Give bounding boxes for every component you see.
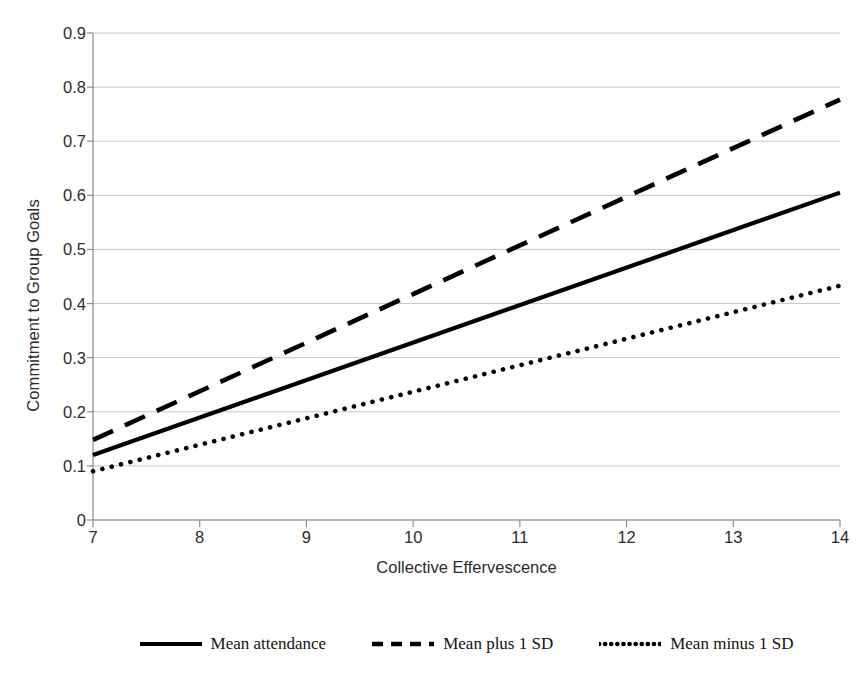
legend-entry-1[interactable]: Mean plus 1 SD [372,634,553,654]
x-tick-label: 13 [724,528,742,547]
legend-swatch-dotted [599,638,661,650]
legend-entry-2[interactable]: Mean minus 1 SD [599,634,793,654]
legend-swatch-dashed [372,638,434,650]
legend-label: Mean attendance [211,634,327,654]
x-tick-label: 12 [617,528,635,547]
chart-legend: Mean attendanceMean plus 1 SDMean minus … [93,627,840,661]
y-tick-label: 0.1 [63,456,86,475]
x-tick-label: 7 [88,528,97,547]
legend-entry-0[interactable]: Mean attendance [140,634,327,654]
x-tick-label: 9 [302,528,311,547]
legend-swatch-solid [140,638,202,650]
y-tick-label: 0.8 [63,78,86,97]
axis-lines [93,33,840,520]
plot-area [93,33,840,520]
x-axis-title-text: Collective Effervescence [376,558,556,576]
data-series [93,100,840,472]
y-axis-title: Commitment to Group Goals [18,135,48,475]
axis-ticks [87,33,840,527]
y-tick-label: 0.9 [63,24,86,43]
legend-label: Mean minus 1 SD [670,634,793,654]
gridlines [93,33,840,520]
series-line-0 [93,193,840,455]
plot-svg [93,33,840,520]
x-tick-label: 14 [831,528,849,547]
x-tick-label: 10 [404,528,422,547]
x-axis-title: Collective Effervescence [93,558,840,577]
y-axis-title-text: Commitment to Group Goals [24,199,43,412]
legend-label: Mean plus 1 SD [443,634,553,654]
x-axis-tick-labels: 7891011121314 [93,528,840,554]
y-tick-label: 0.7 [63,132,86,151]
y-tick-label: 0.2 [63,402,86,421]
y-tick-label: 0.3 [63,348,86,367]
y-tick-label: 0.6 [63,186,86,205]
x-tick-label: 11 [511,528,528,547]
chart-figure: Commitment to Group Goals 00.10.20.30.40… [0,0,867,688]
y-tick-label: 0.4 [63,294,86,313]
x-tick-label: 8 [195,528,204,547]
series-line-1 [93,100,840,440]
y-tick-label: 0.5 [63,240,86,259]
y-axis-tick-labels: 00.10.20.30.40.50.60.70.80.9 [48,33,86,520]
caption-remnant [150,668,750,684]
series-line-2 [93,286,840,472]
y-tick-label: 0 [77,511,86,530]
